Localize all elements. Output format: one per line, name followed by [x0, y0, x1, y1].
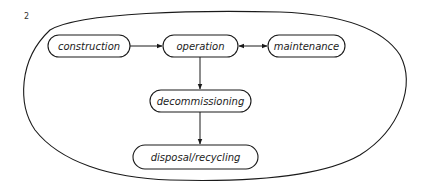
node-operation: operation [163, 35, 238, 57]
node-disposal-recycling: disposal/recycling [133, 145, 258, 169]
svg-text:operation: operation [176, 41, 224, 52]
lifecycle-diagram: construction operation maintenance decom… [0, 0, 428, 187]
svg-text:construction: construction [58, 41, 120, 52]
node-maintenance: maintenance [268, 35, 345, 57]
node-decommissioning: decommissioning [150, 90, 251, 112]
svg-text:disposal/recycling: disposal/recycling [151, 152, 241, 163]
svg-text:maintenance: maintenance [274, 41, 340, 52]
node-construction: construction [48, 35, 130, 57]
svg-text:decommissioning: decommissioning [157, 96, 245, 107]
